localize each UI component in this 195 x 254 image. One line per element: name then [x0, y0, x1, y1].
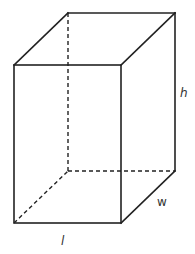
- length-label: l: [61, 234, 65, 248]
- front-face: [14, 65, 121, 223]
- rectangular-prism-diagram: h w l: [0, 0, 195, 254]
- hidden-edges: [14, 13, 175, 223]
- top-left-depth-edge: [14, 13, 68, 65]
- hidden-bottom-left-depth-edge: [14, 171, 68, 223]
- visible-edges: [14, 13, 175, 223]
- top-right-depth-edge: [121, 13, 175, 65]
- height-label: h: [180, 86, 188, 100]
- bottom-right-depth-edge: [121, 171, 175, 223]
- width-label: w: [157, 195, 167, 209]
